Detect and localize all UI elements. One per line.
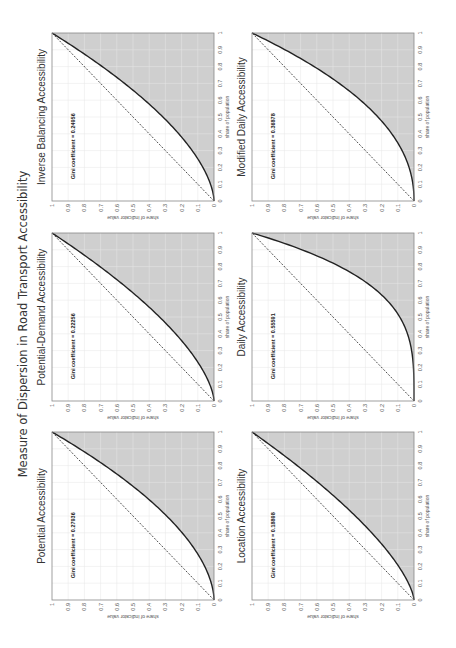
y-tick-label: 0.7 <box>98 603 104 611</box>
y-tick-label: 0.7 <box>298 404 304 412</box>
x-tick-label: 0.7 <box>417 280 423 288</box>
y-tick-label: 0 <box>411 603 417 606</box>
panel-daily-accessibility: Daily Accessibility 000.10.10.20.20.30.3… <box>252 233 414 401</box>
y-axis-label: share of indicator value <box>307 415 359 421</box>
y-tick-label: 0.1 <box>195 404 201 412</box>
x-tick-label: 0.9 <box>417 445 423 453</box>
x-tick-label: 0.6 <box>217 495 223 503</box>
lorenz-plot: 000.10.10.20.20.30.30.40.40.50.50.60.60.… <box>52 233 214 401</box>
x-tick-label: 0.3 <box>217 546 223 554</box>
y-axis-label: share of indicator value <box>107 614 159 620</box>
x-tick-label: 0.2 <box>417 364 423 372</box>
y-tick-label: 0.2 <box>379 603 385 611</box>
x-tick-label: 0.5 <box>217 512 223 520</box>
y-tick-label: 0.6 <box>314 603 320 611</box>
x-tick-label: 0.2 <box>417 164 423 172</box>
x-tick-label: 0.2 <box>217 563 223 571</box>
x-tick-label: 0.4 <box>417 130 423 138</box>
y-tick-label: 0.4 <box>146 404 152 412</box>
x-tick-label: 0.9 <box>217 46 223 54</box>
x-tick-label: 0.8 <box>217 462 223 470</box>
y-tick-label: 0.8 <box>81 204 87 212</box>
x-axis-label: share of population <box>224 296 230 339</box>
y-tick-label: 0.5 <box>130 603 136 611</box>
x-tick-label: 0 <box>217 199 223 202</box>
y-axis-label: share of indicator value <box>107 415 159 421</box>
lorenz-plot: 000.10.10.20.20.30.30.40.40.50.50.60.60.… <box>52 33 214 201</box>
y-tick-label: 0.3 <box>362 204 368 212</box>
x-tick-label: 0.5 <box>417 313 423 321</box>
x-tick-label: 0.2 <box>217 164 223 172</box>
lorenz-plot: 000.10.10.20.20.30.30.40.40.50.50.60.60.… <box>252 33 414 201</box>
y-tick-label: 1 <box>49 404 55 407</box>
y-tick-label: 0.3 <box>362 603 368 611</box>
x-tick-label: 0.8 <box>217 63 223 71</box>
x-tick-label: 0 <box>417 598 423 601</box>
panel-title: Potential Accessibility <box>36 432 47 600</box>
gini-annotation: Gini coefficient = 0.18898 <box>270 512 276 578</box>
x-tick-label: 0.7 <box>417 479 423 487</box>
y-axis-label: share of indicator value <box>107 215 159 221</box>
x-tick-label: 0.2 <box>217 364 223 372</box>
x-tick-label: 0.1 <box>417 180 423 188</box>
x-tick-label: 0.2 <box>417 563 423 571</box>
y-tick-label: 0.4 <box>346 603 352 611</box>
x-tick-label: 1 <box>417 231 423 234</box>
x-tick-label: 0.4 <box>417 330 423 338</box>
y-tick-label: 0.1 <box>195 204 201 212</box>
y-tick-label: 1 <box>249 603 255 606</box>
panel-modified-daily-accessibility: Modified Daily Accessibility 000.10.10.2… <box>252 33 414 201</box>
panel-title: Location Accessibility <box>236 432 247 600</box>
x-tick-label: 0.6 <box>217 296 223 304</box>
y-axis-label: share of indicator value <box>307 215 359 221</box>
y-tick-label: 1 <box>249 404 255 407</box>
figure: Measure of Dispersion in Road Transport … <box>0 0 456 648</box>
x-tick-label: 0.4 <box>417 529 423 537</box>
y-tick-label: 0.3 <box>162 404 168 412</box>
x-tick-label: 0.4 <box>217 529 223 537</box>
y-tick-label: 0.8 <box>81 404 87 412</box>
y-tick-label: 0.9 <box>265 603 271 611</box>
y-tick-label: 0.5 <box>330 204 336 212</box>
x-tick-label: 0.9 <box>417 246 423 254</box>
x-tick-label: 0.8 <box>417 63 423 71</box>
y-tick-label: 0.9 <box>265 404 271 412</box>
x-tick-label: 0.3 <box>417 347 423 355</box>
y-tick-label: 0.3 <box>162 603 168 611</box>
x-tick-label: 0 <box>417 199 423 202</box>
x-tick-label: 0.9 <box>417 46 423 54</box>
y-tick-label: 0.9 <box>265 204 271 212</box>
panel-title: Daily Accessibility <box>236 233 247 401</box>
y-tick-label: 0.2 <box>179 204 185 212</box>
y-tick-label: 0 <box>211 404 217 407</box>
x-tick-label: 0.8 <box>417 263 423 271</box>
x-tick-label: 0.1 <box>417 380 423 388</box>
x-tick-label: 0.6 <box>217 96 223 104</box>
y-tick-label: 0 <box>411 204 417 207</box>
x-axis-label: share of population <box>224 96 230 139</box>
y-tick-label: 0.4 <box>146 603 152 611</box>
gini-annotation: Gini coefficient = 0.22256 <box>70 313 76 379</box>
x-tick-label: 0.3 <box>217 147 223 155</box>
y-tick-label: 0.4 <box>346 404 352 412</box>
y-tick-label: 0.8 <box>281 404 287 412</box>
y-tick-label: 0.7 <box>98 404 104 412</box>
panel-potential-demand-accessibility: Potential-Demand Accessibility 000.10.10… <box>52 233 214 401</box>
panel-title: Modified Daily Accessibility <box>236 33 247 201</box>
lorenz-plot: 000.10.10.20.20.30.30.40.40.50.50.60.60.… <box>252 432 414 600</box>
x-tick-label: 0.3 <box>417 546 423 554</box>
x-tick-label: 0.3 <box>217 347 223 355</box>
x-tick-label: 1 <box>217 231 223 234</box>
x-tick-label: 0 <box>417 399 423 402</box>
x-tick-label: 0.7 <box>217 280 223 288</box>
x-axis-label: share of population <box>224 495 230 538</box>
x-axis-label: share of population <box>424 96 430 139</box>
x-tick-label: 0.8 <box>417 462 423 470</box>
y-tick-label: 0.6 <box>114 603 120 611</box>
x-tick-label: 0 <box>217 598 223 601</box>
y-tick-label: 0.7 <box>298 603 304 611</box>
x-tick-label: 1 <box>417 31 423 34</box>
y-tick-label: 0.2 <box>379 204 385 212</box>
x-tick-label: 0.5 <box>217 113 223 121</box>
y-tick-label: 0.6 <box>314 204 320 212</box>
